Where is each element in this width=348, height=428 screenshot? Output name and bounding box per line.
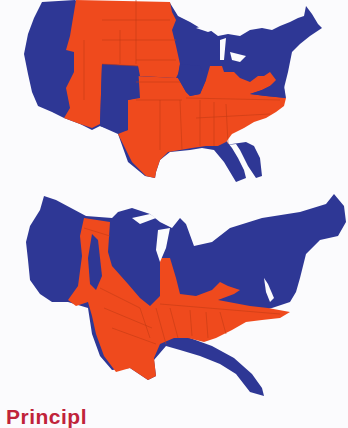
geographic-election-map (0, 0, 348, 185)
map-top-svg (0, 0, 348, 185)
section-heading: Principl (6, 406, 87, 427)
map-bottom-svg (0, 188, 348, 398)
population-cartogram (0, 188, 348, 398)
